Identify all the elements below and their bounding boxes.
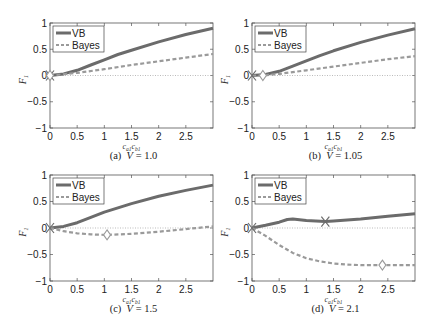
y-tick-label: 1 (41, 18, 47, 29)
legend-bayes-label: Bayes (72, 192, 100, 203)
y-axis-label: F1 (219, 227, 232, 238)
legend-vb-label: VB (72, 180, 86, 191)
y-tick-label: 1 (243, 18, 249, 29)
panel-caption: (d) V = 2.1 (311, 303, 359, 315)
x-tick-label: 1.5 (125, 131, 139, 142)
y-tick-label: 0.5 (33, 44, 47, 55)
legend: VBBayes (255, 178, 306, 204)
legend-vb-label: VB (72, 28, 86, 39)
panel-caption: (b) V = 1.05 (309, 150, 362, 162)
y-tick-label: 1 (41, 170, 47, 181)
x-tick-label: 0 (47, 131, 53, 142)
legend-bayes-label: Bayes (274, 192, 302, 203)
x-tick-label: 2.5 (381, 284, 395, 295)
y-tick-label: −0.5 (27, 96, 47, 107)
x-tick-label: 2.5 (179, 284, 193, 295)
y-tick-label: −1 (36, 123, 48, 134)
panel-caption: (c) V = 1.5 (110, 303, 158, 315)
panel-b: −1−0.500.5100.511.522.5VBBayesca1cb1F1(b… (219, 18, 415, 163)
x-tick-label: 0 (249, 284, 255, 295)
x-tick-label: 0.5 (272, 131, 286, 142)
x-tick-label: 0.5 (272, 284, 286, 295)
x-tick-label: 1.5 (125, 284, 139, 295)
y-tick-label: −1 (238, 276, 250, 287)
y-tick-label: −0.5 (229, 249, 249, 260)
x-tick-label: 2 (358, 131, 364, 142)
x-tick-label: 2 (156, 131, 162, 142)
legend: VBBayes (53, 26, 104, 52)
x-tick-label: 1 (102, 284, 108, 295)
y-tick-label: 1 (243, 170, 249, 181)
x-tick-label: 1 (304, 284, 310, 295)
y-tick-label: −1 (238, 123, 250, 134)
panel-d: −1−0.500.5100.511.522.5VBBayesca1cb1F1(d… (219, 170, 415, 316)
figure: −1−0.500.5100.511.522.5VBBayesca1cb1F1(a… (0, 0, 435, 333)
x-tick-label: 0 (249, 131, 255, 142)
y-tick-label: 0.5 (235, 196, 249, 207)
legend-vb-label: VB (274, 180, 288, 191)
x-tick-label: 2.5 (381, 131, 395, 142)
y-axis-label: F1 (17, 227, 30, 238)
x-tick-label: 2 (358, 284, 364, 295)
legend: VBBayes (255, 26, 306, 52)
legend-bayes-label: Bayes (72, 40, 100, 51)
y-tick-label: −0.5 (229, 96, 249, 107)
x-tick-label: 1.5 (327, 284, 341, 295)
y-tick-label: −1 (36, 276, 48, 287)
legend: VBBayes (53, 178, 104, 204)
panel-c: −1−0.500.5100.511.522.5VBBayesca1cb1F1(c… (17, 170, 213, 316)
panel-caption: (a) V = 1.0 (110, 150, 158, 162)
legend-vb-label: VB (274, 28, 288, 39)
y-axis-label: F1 (219, 75, 232, 86)
y-tick-label: −0.5 (27, 249, 47, 260)
x-tick-label: 0 (47, 284, 53, 295)
legend-bayes-label: Bayes (274, 40, 302, 51)
y-tick-label: 0.5 (235, 44, 249, 55)
x-tick-label: 1 (304, 131, 310, 142)
x-tick-label: 2 (156, 284, 162, 295)
y-tick-label: 0.5 (33, 196, 47, 207)
panel-a: −1−0.500.5100.511.522.5VBBayesca1cb1F1(a… (17, 18, 213, 163)
x-tick-label: 0.5 (70, 284, 84, 295)
x-tick-label: 1 (102, 131, 108, 142)
x-tick-label: 2.5 (179, 131, 193, 142)
x-tick-label: 0.5 (70, 131, 84, 142)
y-axis-label: F1 (17, 75, 30, 86)
x-tick-label: 1.5 (327, 131, 341, 142)
